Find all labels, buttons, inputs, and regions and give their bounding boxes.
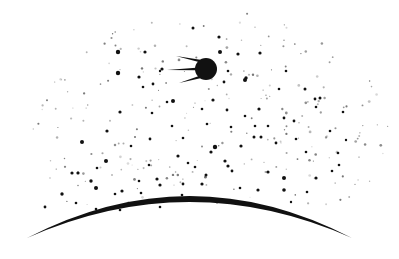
bright-star-field [44,27,348,212]
star-icon [94,186,98,190]
star-icon [151,22,153,24]
star-icon [118,143,120,145]
star-icon [282,45,284,47]
star-icon [33,128,34,129]
star-icon [179,23,180,24]
star-icon [319,97,322,100]
star-icon [75,202,78,205]
star-icon [197,160,198,161]
star-icon [201,145,203,147]
star-icon [193,107,194,108]
star-icon [155,177,158,180]
star-icon [246,133,247,134]
star-icon [307,101,309,103]
star-icon [154,44,157,47]
star-icon [285,66,287,68]
star-icon [171,125,174,128]
star-icon [181,194,184,197]
star-icon [377,124,378,125]
star-icon [285,112,288,115]
star-icon [205,174,208,177]
star-icon [55,108,57,110]
star-icon [321,42,324,45]
star-icon [304,101,307,104]
star-icon [371,86,373,88]
star-icon [293,120,296,123]
star-icon [239,22,241,24]
star-icon [266,97,268,99]
sputnik-satellite-icon [167,56,217,83]
star-icon [187,162,190,165]
star-icon [332,56,334,58]
star-icon [326,135,329,138]
star-icon [171,99,175,103]
star-icon [300,53,301,54]
star-icon [284,24,285,25]
star-icon [253,136,256,139]
star-icon [177,174,180,177]
star-icon [41,104,43,106]
star-icon [266,170,269,173]
star-icon [362,104,364,106]
star-icon [49,177,51,179]
star-icon [105,129,108,132]
star-icon [223,159,226,162]
star-icon [82,120,84,122]
star-icon [317,103,319,105]
star-icon [323,97,325,99]
star-icon [140,192,143,195]
star-icon [228,98,230,100]
star-icon [137,188,138,189]
star-icon [230,126,233,129]
star-icon [166,177,169,180]
star-icon [283,39,285,41]
star-icon [57,127,58,128]
star-icon [290,201,292,203]
antenna-icon [179,76,200,83]
star-icon [100,166,102,168]
star-icon [369,80,371,82]
star-icon [86,204,87,205]
star-icon [210,123,211,124]
star-icon [369,180,370,181]
star-icon [239,144,242,147]
star-icon [233,188,235,190]
star-icon [70,171,73,174]
star-icon [200,182,203,185]
star-icon [338,164,341,167]
star-icon [243,70,245,72]
star-icon [313,160,314,161]
star-icon [318,100,320,102]
star-icon [282,188,286,192]
star-icon [107,80,109,82]
star-icon [101,152,103,154]
faint-star-field [33,13,389,205]
star-icon [151,112,154,115]
star-icon [223,81,226,84]
star-icon [80,140,84,144]
star-icon [119,155,122,158]
star-icon [166,101,169,104]
star-icon [358,135,360,137]
star-icon [275,166,277,168]
star-icon [305,151,308,154]
star-icon [116,50,120,54]
star-icon [362,125,363,126]
star-icon [37,123,39,125]
star-icon [108,62,110,64]
star-icon [334,127,336,129]
star-icon [85,107,87,109]
star-icon [358,156,359,157]
star-icon [280,141,282,143]
star-icon [127,162,130,165]
star-icon [204,100,205,101]
star-icon [359,132,360,133]
star-icon [115,45,117,47]
star-icon [59,78,62,81]
star-icon [226,46,229,49]
star-icon [342,111,345,114]
star-icon [316,75,319,78]
star-icon [186,113,187,114]
star-icon [258,51,261,54]
star-icon [175,140,176,141]
